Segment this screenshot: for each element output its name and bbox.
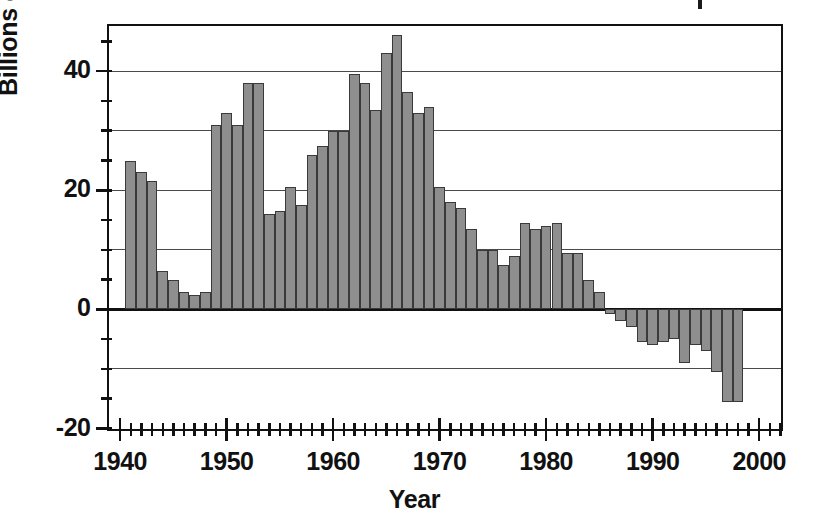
- x-axis-minor-tick: [406, 423, 409, 436]
- x-axis-minor-tick: [343, 423, 346, 436]
- x-axis-minor-tick: [428, 423, 431, 436]
- bar: [328, 131, 339, 310]
- x-axis-minor-tick: [321, 423, 324, 436]
- bar: [402, 92, 413, 309]
- bar: [338, 131, 349, 310]
- bar: [413, 113, 424, 310]
- bar: [520, 223, 531, 309]
- x-axis-minor-tick: [683, 423, 686, 436]
- x-axis-minor-tick: [630, 423, 633, 436]
- bar: [637, 309, 648, 342]
- y-axis-minor-tick: [101, 397, 112, 400]
- x-axis-minor-tick: [162, 423, 165, 436]
- x-axis-minor-tick: [609, 423, 612, 436]
- bar: [424, 107, 435, 309]
- x-axis-minor-tick: [289, 423, 292, 436]
- x-axis-minor-tick: [705, 423, 708, 436]
- x-axis-minor-tick: [556, 423, 559, 436]
- x-axis-tick-label: 1960: [306, 447, 360, 476]
- bar: [733, 309, 744, 401]
- bar: [445, 202, 456, 309]
- y-axis-major-tick: [96, 189, 112, 192]
- bar: [381, 53, 392, 309]
- bar: [221, 113, 232, 310]
- y-axis-minor-tick: [101, 249, 112, 252]
- y-axis-major-tick: [96, 308, 112, 311]
- x-axis-minor-tick: [172, 423, 175, 436]
- bar: [466, 229, 477, 309]
- x-axis-minor-tick: [193, 423, 196, 436]
- bar: [552, 223, 563, 309]
- x-axis-minor-tick: [140, 423, 143, 436]
- plot-area: [110, 27, 781, 429]
- bar: [701, 309, 712, 351]
- x-axis-minor-tick: [481, 423, 484, 436]
- bar: [179, 292, 190, 310]
- bar: [168, 280, 179, 310]
- x-axis-minor-tick: [513, 423, 516, 436]
- gridline: [110, 368, 781, 369]
- x-axis-minor-tick: [311, 423, 314, 436]
- y-axis-minor-tick: [101, 368, 112, 371]
- bar: [658, 309, 669, 342]
- x-axis-minor-tick: [375, 423, 378, 436]
- x-axis-minor-tick: [588, 423, 591, 436]
- bar: [136, 172, 147, 309]
- y-axis-major-tick: [96, 427, 112, 430]
- x-axis-minor-tick: [183, 423, 186, 436]
- bar: [317, 146, 328, 310]
- bar: [477, 250, 488, 310]
- x-axis-minor-tick: [779, 423, 782, 436]
- truncated-title-remnant: [698, 0, 702, 9]
- y-axis-tick-label: 0: [77, 293, 90, 322]
- x-axis-minor-tick: [151, 423, 154, 436]
- bar: [679, 309, 690, 363]
- x-axis-minor-tick: [396, 423, 399, 436]
- x-axis-tick-label: 1980: [519, 447, 573, 476]
- x-axis-minor-tick: [353, 423, 356, 436]
- x-axis-major-tick: [651, 418, 654, 441]
- x-axis-minor-tick: [247, 423, 250, 436]
- y-axis-minor-tick: [101, 129, 112, 132]
- y-axis-title: Billions of barrels: [0, 0, 23, 96]
- x-axis-minor-tick: [715, 423, 718, 436]
- x-axis-minor-tick: [257, 423, 260, 436]
- bar: [647, 309, 658, 345]
- bar: [275, 211, 286, 309]
- x-axis-minor-tick: [566, 423, 569, 436]
- x-axis-minor-tick: [662, 423, 665, 436]
- x-axis-minor-tick: [449, 423, 452, 436]
- bar: [360, 83, 371, 309]
- x-axis-minor-tick: [769, 423, 772, 436]
- y-axis-minor-tick: [101, 159, 112, 162]
- x-axis-minor-tick: [268, 423, 271, 436]
- x-axis-minor-tick: [524, 423, 527, 436]
- bar: [125, 161, 136, 310]
- x-axis-minor-tick: [726, 423, 729, 436]
- bar: [147, 181, 158, 309]
- x-axis-minor-tick: [130, 423, 133, 436]
- x-axis-minor-tick: [619, 423, 622, 436]
- x-axis-tick-label: 1970: [413, 447, 467, 476]
- bar: [669, 309, 680, 339]
- bar: [605, 309, 616, 314]
- x-axis-major-tick: [438, 418, 441, 441]
- y-axis-tick-label: 20: [64, 174, 91, 203]
- x-axis-tick-label: 1950: [200, 447, 254, 476]
- x-axis-minor-tick: [364, 423, 367, 436]
- x-axis-minor-tick: [673, 423, 676, 436]
- bar: [211, 125, 222, 310]
- x-axis-minor-tick: [747, 423, 750, 436]
- x-axis-minor-tick: [204, 423, 207, 436]
- bar: [594, 292, 605, 310]
- x-axis-major-tick: [758, 418, 761, 441]
- bar: [392, 35, 403, 309]
- bar: [189, 295, 200, 310]
- x-axis-minor-tick: [279, 423, 282, 436]
- bar: [711, 309, 722, 372]
- bar: [370, 110, 381, 310]
- bar: [541, 226, 552, 309]
- bar: [530, 229, 541, 309]
- bar: [722, 309, 733, 401]
- x-axis-major-tick: [225, 418, 228, 441]
